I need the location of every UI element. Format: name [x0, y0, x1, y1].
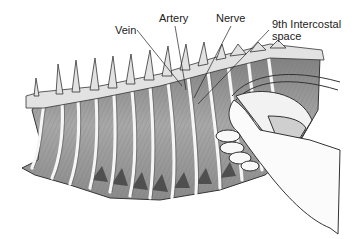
label-intercostal-line1: 9th Intercostal [272, 18, 341, 30]
figure-canvas: Vein Artery Nerve 9th Intercostal space [0, 0, 357, 239]
label-intercostal-line2: space [272, 30, 341, 42]
label-artery: Artery [159, 12, 188, 24]
hand-with-probe [216, 91, 340, 234]
label-vein: Vein [115, 24, 136, 36]
label-nerve: Nerve [216, 12, 245, 24]
label-9th-intercostal-space: 9th Intercostal space [272, 18, 341, 42]
